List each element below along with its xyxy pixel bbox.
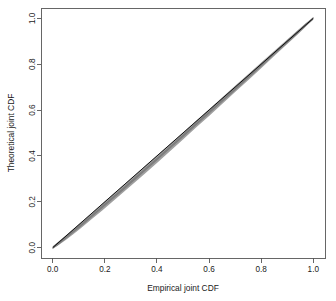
y-tick-label: 0.8 (28, 58, 37, 70)
y-tick-label: 1.0 (28, 12, 37, 24)
x-tick-label: 0.0 (47, 265, 59, 274)
y-tick-label: 0.6 (28, 104, 37, 116)
x-tick-label: 0.6 (203, 265, 215, 274)
x-axis-title: Empirical joint CDF (147, 283, 219, 293)
plot-canvas: 0.00.20.40.60.81.0 0.00.20.40.60.81.0 Em… (0, 0, 336, 301)
y-tick-label: 0.2 (28, 196, 37, 208)
pp-plot-figure: 0.00.20.40.60.81.0 0.00.20.40.60.81.0 Em… (0, 0, 336, 301)
y-axis-title: Theoretical joint CDF (6, 94, 16, 173)
x-tick-label: 0.8 (255, 265, 267, 274)
x-tick-label: 0.4 (151, 265, 163, 274)
y-tick-label: 0.0 (28, 242, 37, 254)
y-tick-label: 0.4 (28, 150, 37, 162)
x-tick-label: 0.2 (99, 265, 111, 274)
x-tick-label: 1.0 (308, 265, 320, 274)
y-axis-ticks: 0.00.20.40.60.81.0 (28, 12, 41, 253)
x-axis-ticks: 0.00.20.40.60.81.0 (47, 258, 319, 274)
